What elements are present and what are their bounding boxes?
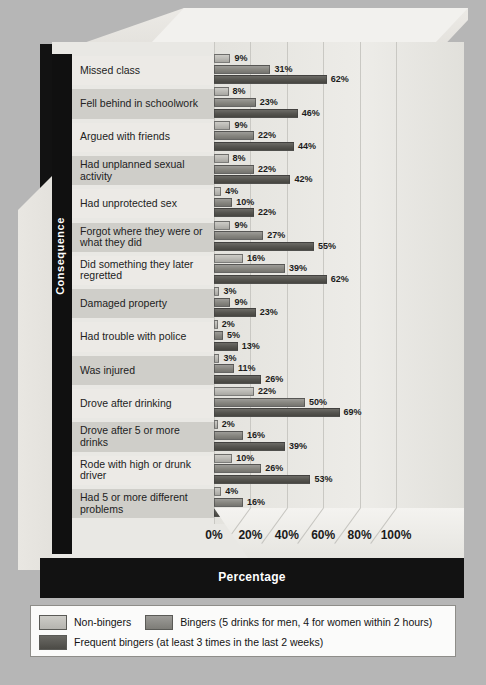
chart-legend: Non-bingers Bingers (5 drinks for men, 4… bbox=[30, 605, 456, 657]
bar-value-label: 13% bbox=[242, 341, 260, 351]
bar-value-label: 55% bbox=[318, 241, 336, 251]
legend-label-frequent-bingers: Frequent bingers (at least 3 times in th… bbox=[74, 636, 323, 648]
bar-value-label: 8% bbox=[233, 86, 246, 96]
bar bbox=[214, 242, 314, 251]
bar bbox=[214, 464, 261, 473]
bar bbox=[214, 331, 223, 340]
x-tick-100%: 100% bbox=[381, 528, 412, 542]
bar-value-label: 9% bbox=[234, 53, 247, 63]
bar bbox=[214, 275, 327, 284]
bar bbox=[214, 175, 290, 184]
bar-value-label: 26% bbox=[265, 374, 283, 384]
bar bbox=[214, 375, 261, 384]
category-label-text: Damaged property bbox=[80, 298, 167, 310]
bar-value-label: 31% bbox=[274, 64, 292, 74]
bar-value-label: 42% bbox=[294, 174, 312, 184]
bar bbox=[214, 198, 232, 207]
bar bbox=[214, 287, 219, 296]
category-label-text: Forgot where they were or what they did bbox=[80, 226, 210, 249]
category-label-column: Missed classFell behind in schoolworkArg… bbox=[72, 42, 214, 558]
x-axis-ticks: 0%20%40%60%80%100% bbox=[168, 528, 478, 548]
bar bbox=[214, 342, 238, 351]
category-label-12: Rode with high or drunk driver bbox=[72, 456, 214, 485]
category-label-3: Had unplanned sexual activity bbox=[72, 156, 214, 185]
bar-value-label: 39% bbox=[289, 441, 307, 451]
bar-value-label: 22% bbox=[258, 386, 276, 396]
bar-value-label: 5% bbox=[227, 330, 240, 340]
bar-value-label: 50% bbox=[309, 397, 327, 407]
y-axis-strip: Consequence bbox=[52, 54, 72, 554]
bar bbox=[214, 398, 305, 407]
bar bbox=[214, 431, 243, 440]
bar bbox=[214, 420, 218, 429]
gridline-80 bbox=[360, 42, 361, 524]
bar-value-label: 22% bbox=[258, 130, 276, 140]
bar-value-label: 11% bbox=[238, 363, 256, 373]
category-label-text: Drove after drinking bbox=[80, 398, 172, 410]
bar bbox=[214, 308, 256, 317]
bar bbox=[214, 364, 234, 373]
category-label-11: Drove after 5 or more drinks bbox=[72, 422, 214, 451]
bar bbox=[214, 154, 229, 163]
bar-value-label: 27% bbox=[267, 230, 285, 240]
bar bbox=[214, 142, 294, 151]
bar-value-label: 9% bbox=[234, 297, 247, 307]
bar bbox=[214, 165, 254, 174]
bar-value-label: 46% bbox=[302, 108, 320, 118]
bar-value-label: 23% bbox=[260, 97, 278, 107]
x-axis-title: Percentage bbox=[40, 570, 464, 584]
bar bbox=[214, 65, 270, 74]
bar bbox=[214, 208, 254, 217]
bar bbox=[214, 121, 230, 130]
bar-value-label: 16% bbox=[247, 497, 265, 507]
bar-value-label: 22% bbox=[258, 207, 276, 217]
bar bbox=[214, 221, 230, 230]
bar-value-label: 2% bbox=[222, 419, 235, 429]
bar bbox=[214, 264, 285, 273]
bar-value-label: 3% bbox=[223, 353, 236, 363]
x-tick-20%: 20% bbox=[238, 528, 262, 542]
bar bbox=[214, 231, 263, 240]
legend-row-top: Non-bingers Bingers (5 drinks for men, 4… bbox=[39, 612, 447, 632]
category-label-text: Did something they later regretted bbox=[80, 259, 210, 282]
category-label-text: Was injured bbox=[80, 365, 135, 377]
x-tick-80%: 80% bbox=[348, 528, 372, 542]
category-label-2: Argued with friends bbox=[72, 123, 214, 152]
legend-swatch-non-bingers bbox=[39, 615, 67, 630]
bar-value-label: 4% bbox=[225, 486, 238, 496]
category-label-text: Missed class bbox=[80, 65, 140, 77]
category-label-text: Drove after 5 or more drinks bbox=[80, 425, 210, 448]
x-tick-0%: 0% bbox=[205, 528, 222, 542]
bar bbox=[214, 387, 254, 396]
category-label-text: Had trouble with police bbox=[80, 331, 186, 343]
bar-value-label: 62% bbox=[331, 274, 349, 284]
bar bbox=[214, 298, 230, 307]
bar bbox=[214, 475, 310, 484]
bar-value-label: 69% bbox=[344, 407, 362, 417]
plot-area: 9%31%62%8%23%46%9%22%44%8%22%42%4%10%22%… bbox=[214, 42, 464, 558]
bar-value-label: 10% bbox=[236, 453, 254, 463]
legend-swatch-bingers bbox=[145, 615, 173, 630]
bar bbox=[214, 87, 229, 96]
bar bbox=[214, 109, 298, 118]
legend-label-non-bingers: Non-bingers bbox=[74, 616, 131, 628]
legend-row-bottom: Frequent bingers (at least 3 times in th… bbox=[39, 632, 447, 652]
category-label-6: Did something they later regretted bbox=[72, 256, 214, 285]
bar-value-label: 16% bbox=[247, 253, 265, 263]
category-label-0: Missed class bbox=[72, 56, 214, 85]
bar-value-label: 22% bbox=[258, 164, 276, 174]
category-label-10: Drove after drinking bbox=[72, 389, 214, 418]
category-label-13: Had 5 or more different problems bbox=[72, 489, 214, 518]
category-label-1: Fell behind in schoolwork bbox=[72, 89, 214, 118]
category-label-text: Had unplanned sexual activity bbox=[80, 159, 210, 182]
bar-value-label: 23% bbox=[260, 307, 278, 317]
category-label-5: Forgot where they were or what they did bbox=[72, 223, 214, 252]
bar-value-label: 2% bbox=[222, 319, 235, 329]
category-label-7: Damaged property bbox=[72, 289, 214, 318]
legend-label-bingers: Bingers (5 drinks for men, 4 for women w… bbox=[180, 616, 432, 628]
bar bbox=[214, 254, 243, 263]
bar-value-label: 4% bbox=[225, 186, 238, 196]
gridline-100 bbox=[396, 42, 397, 524]
bar bbox=[214, 442, 285, 451]
category-label-8: Had trouble with police bbox=[72, 322, 214, 351]
